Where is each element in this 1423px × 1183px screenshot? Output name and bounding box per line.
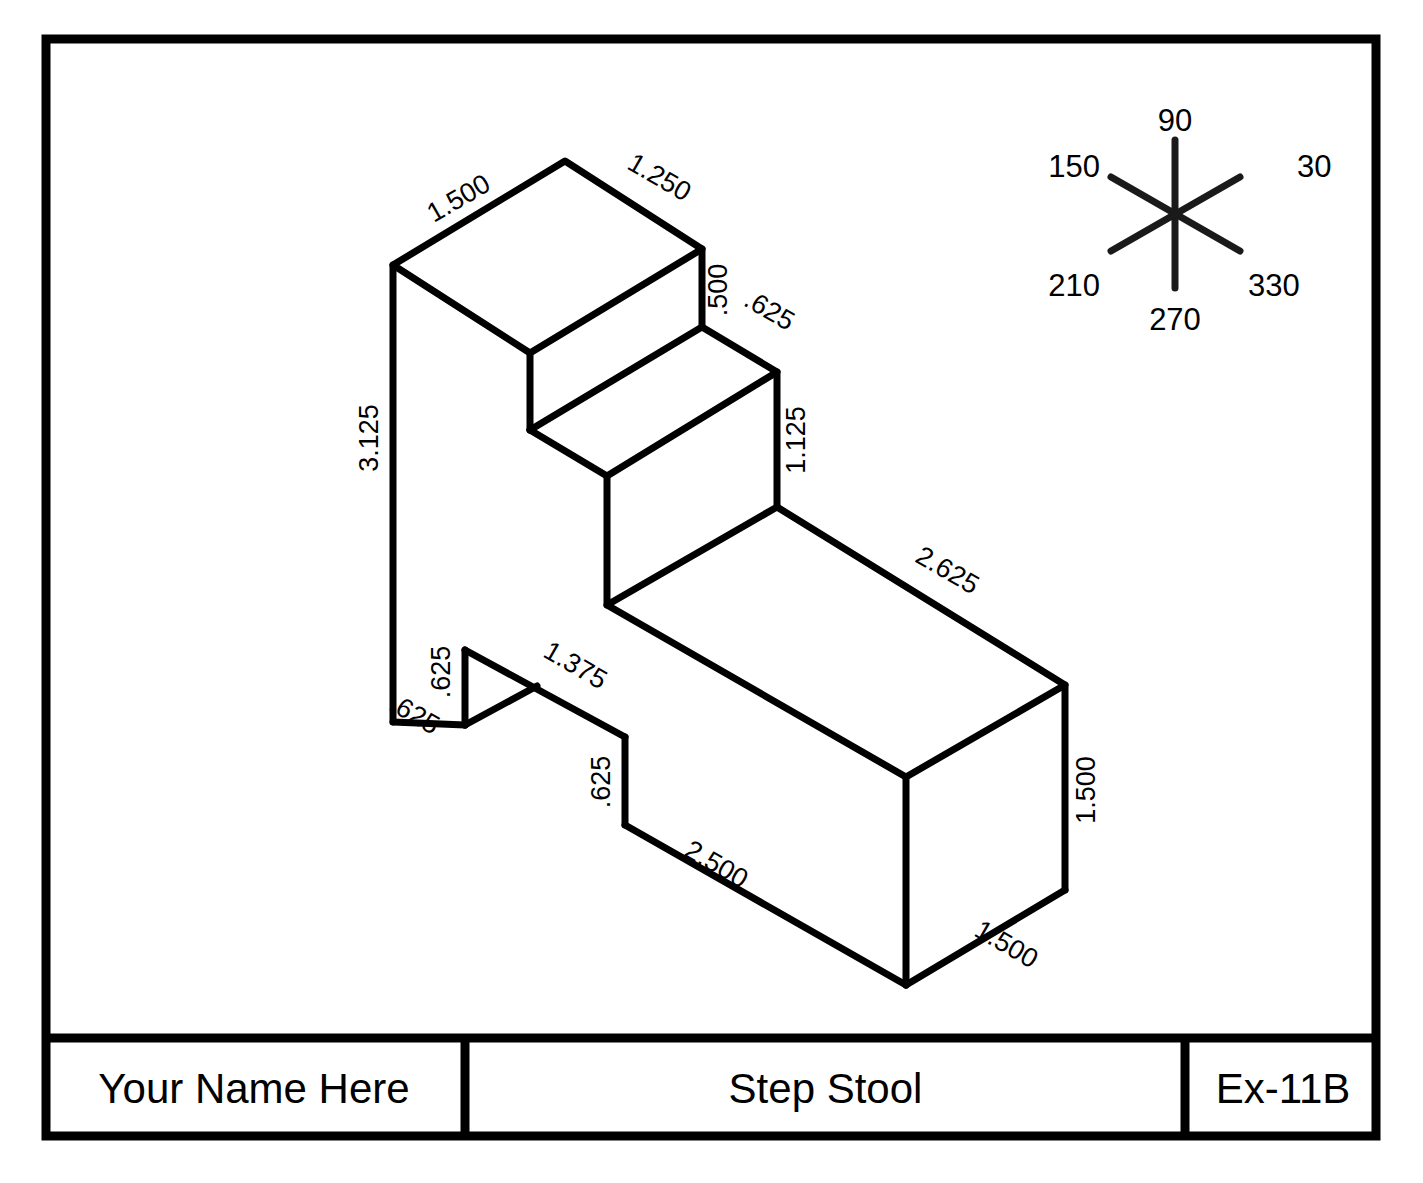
d-625-notch-riser: .625 (426, 646, 456, 699)
technical-drawing-canvas: 90 30 150 210 270 330 1.5001.250.500.625… (0, 0, 1423, 1183)
axis-compass-group: 90 30 150 210 270 330 (1048, 103, 1331, 337)
lower-top-face (607, 507, 1065, 777)
axis-label-330: 330 (1248, 268, 1300, 303)
step-tread-top-face (530, 327, 777, 476)
d-625-step-tread: .625 (739, 284, 800, 336)
d-1500-top-left: 1.500 (422, 168, 496, 228)
axis-label-30: 30 (1297, 149, 1331, 184)
d-2625-top-long: 2.625 (911, 540, 985, 600)
d-625-base-riser: .625 (586, 756, 616, 809)
d-3125-left-height: 3.125 (354, 404, 384, 472)
d-2500-base-front: 2.500 (680, 834, 754, 894)
step-tread-back-edge (530, 327, 702, 430)
d-1125-mid-riser: 1.125 (781, 406, 811, 474)
d-1250-top-right: 1.250 (623, 147, 697, 207)
d-1375-notch-top: 1.375 (539, 635, 613, 695)
title-block-number-cell: Ex-11B (1190, 1043, 1376, 1135)
drawing-sheet: 90 30 150 210 270 330 1.5001.250.500.625… (0, 0, 1423, 1183)
lower-bottom-front-edge (625, 825, 906, 985)
title-block-name-cell: Your Name Here (47, 1043, 461, 1135)
dimension-label-layer: 1.5001.250.500.6251.1253.1252.625.6251.3… (354, 147, 1101, 974)
title-block-title-cell: Step Stool (470, 1043, 1181, 1135)
axis-label-270: 270 (1149, 302, 1201, 337)
axis-label-210: 210 (1048, 268, 1100, 303)
d-500-riser: .500 (703, 264, 733, 317)
d-1500-right-height: 1.500 (1071, 756, 1101, 824)
axis-label-150: 150 (1048, 149, 1100, 184)
axis-label-90: 90 (1158, 103, 1192, 138)
notch-lower-diagonal-edge (465, 686, 537, 725)
